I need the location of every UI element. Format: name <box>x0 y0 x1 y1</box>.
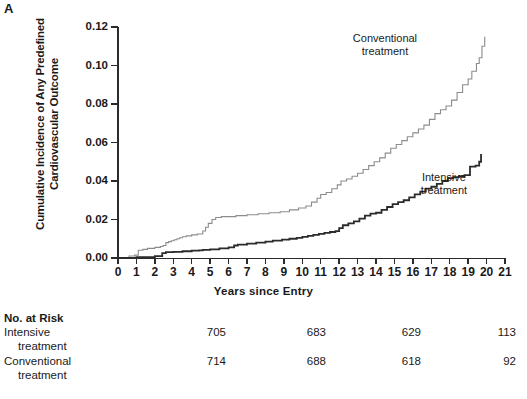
x-tick-label: 15 <box>384 266 404 279</box>
plot-area <box>118 27 505 258</box>
annotation-intensive-line1: Intensive <box>422 171 466 183</box>
risk-row-label-line2: treatment <box>4 340 174 354</box>
x-tick <box>357 258 359 264</box>
risk-value: 113 <box>472 326 516 340</box>
y-tick <box>111 26 118 28</box>
x-tick <box>394 258 396 264</box>
x-tick-label: 10 <box>292 266 312 279</box>
x-tick <box>320 258 322 264</box>
x-tick <box>154 258 156 264</box>
risk-value: 688 <box>282 355 326 369</box>
x-tick <box>486 258 488 264</box>
x-tick-label: 5 <box>200 266 220 279</box>
risk-value: 683 <box>282 326 326 340</box>
risk-row-label: Conventionaltreatment <box>4 355 174 382</box>
x-tick-label: 9 <box>274 266 294 279</box>
y-tick <box>111 103 118 105</box>
x-tick-label: 14 <box>366 266 386 279</box>
y-tick <box>111 180 118 182</box>
x-tick-label: 17 <box>421 266 441 279</box>
risk-value: 629 <box>377 326 421 340</box>
x-tick-label: 0 <box>108 266 128 279</box>
x-tick-label: 1 <box>126 266 146 279</box>
x-tick <box>431 258 433 264</box>
curve-intensive-treatment <box>118 154 481 258</box>
x-tick <box>375 258 377 264</box>
annotation-conventional-treatment: Conventional treatment <box>353 32 417 58</box>
y-tick-label: 0.00 <box>66 252 108 263</box>
x-tick <box>246 258 248 264</box>
y-tick-label: 0.04 <box>66 175 108 186</box>
x-tick-label: 21 <box>495 266 515 279</box>
y-tick <box>111 65 118 67</box>
risk-row-label-line1: Intensive <box>4 326 50 338</box>
x-tick <box>117 258 119 264</box>
x-tick-label: 16 <box>403 266 423 279</box>
curve-conventional-treatment <box>118 37 485 258</box>
x-tick <box>449 258 451 264</box>
x-tick <box>209 258 211 264</box>
x-tick-label: 18 <box>440 266 460 279</box>
y-axis-label-line2: Cardiovascular Outcome <box>48 58 60 190</box>
x-tick-label: 6 <box>219 266 239 279</box>
annotation-conventional-line1: Conventional <box>353 32 417 44</box>
x-tick <box>302 258 304 264</box>
annotation-intensive-treatment: Intensive treatment <box>421 171 467 197</box>
annotation-intensive-line2: treatment <box>421 184 467 196</box>
risk-value: 705 <box>182 326 226 340</box>
risk-table-title: No. at Risk <box>4 312 63 326</box>
x-tick <box>265 258 267 264</box>
y-tick-label: 0.10 <box>66 60 108 71</box>
x-tick-label: 3 <box>163 266 183 279</box>
y-axis-label: Cumulative Incidence of Any Predefined C… <box>33 0 61 249</box>
x-tick <box>467 258 469 264</box>
risk-row-label-line1: Conventional <box>4 355 71 367</box>
risk-value: 714 <box>182 355 226 369</box>
x-tick <box>412 258 414 264</box>
risk-value: 92 <box>472 355 516 369</box>
x-tick-label: 13 <box>348 266 368 279</box>
x-tick <box>173 258 175 264</box>
y-tick-label: 0.12 <box>66 21 108 32</box>
kaplan-meier-chart: Cumulative Incidence of Any Predefined C… <box>0 0 527 305</box>
x-tick <box>338 258 340 264</box>
x-axis-label: Years since Entry <box>0 285 527 297</box>
y-tick <box>111 142 118 144</box>
y-tick-label: 0.06 <box>66 137 108 148</box>
x-tick-label: 8 <box>255 266 275 279</box>
risk-row-label-line2: treatment <box>4 369 174 383</box>
annotation-conventional-line2: treatment <box>362 45 408 57</box>
risk-table-row: Conventionaltreatment71468861892 <box>0 355 527 383</box>
x-tick-label: 20 <box>477 266 497 279</box>
x-tick <box>283 258 285 264</box>
x-tick-label: 19 <box>458 266 478 279</box>
y-tick-label: 0.08 <box>66 98 108 109</box>
y-tick-label: 0.02 <box>66 214 108 225</box>
x-tick-label: 11 <box>311 266 331 279</box>
x-tick-label: 2 <box>145 266 165 279</box>
x-tick-label: 4 <box>182 266 202 279</box>
y-tick <box>111 219 118 221</box>
y-axis-label-line1: Cumulative Incidence of Any Predefined <box>34 18 46 230</box>
risk-value: 618 <box>377 355 421 369</box>
x-tick <box>228 258 230 264</box>
x-tick <box>191 258 193 264</box>
x-tick-label: 12 <box>329 266 349 279</box>
x-tick-label: 7 <box>237 266 257 279</box>
x-tick <box>136 258 138 264</box>
risk-row-label: Intensivetreatment <box>4 326 174 353</box>
risk-table-row: Intensivetreatment705683629113 <box>0 326 527 354</box>
x-tick <box>504 258 506 264</box>
